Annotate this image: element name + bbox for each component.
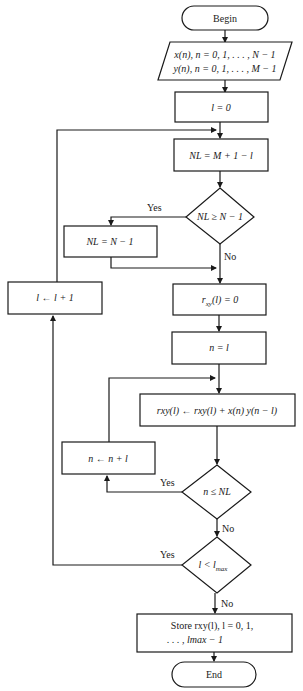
- decision-nl-no-label: No: [224, 251, 236, 262]
- accum-box: rxy(l) ← rxy(l) + x(n) y(n − l): [140, 394, 295, 426]
- input-line1: x(n), n = 0, 1, . . . , N − 1: [173, 49, 275, 61]
- store-line2: . . . , lmax − 1: [167, 634, 223, 645]
- decision-n: n ≤ NL: [182, 465, 251, 519]
- end-terminator: End: [172, 662, 256, 687]
- init-r-box: rxy(l) = 0: [173, 284, 266, 315]
- decision-l-yes-label: Yes: [160, 549, 175, 560]
- end-label: End: [206, 669, 222, 680]
- input-parallelogram: x(n), n = 0, 1, . . . , N − 1 y(n), n = …: [158, 42, 292, 80]
- inc-n-box: n ← n + l: [62, 442, 155, 474]
- calc-nl-box: NL = M + 1 − l: [174, 139, 268, 171]
- init-n-label: n = l: [209, 342, 229, 353]
- store-line1: Store rxy(l), l = 0, 1,: [171, 620, 253, 632]
- decision-nl: NL ≥ N − 1: [186, 188, 254, 244]
- begin-label: Begin: [213, 13, 237, 24]
- edge-decision-l-yes: [53, 316, 182, 565]
- store-box: Store rxy(l), l = 0, 1, . . . , lmax − 1: [137, 614, 292, 652]
- flowchart: Begin x(n), n = 0, 1, . . . , N − 1 y(n)…: [0, 0, 303, 691]
- edge-decision-nl-yes: [111, 217, 186, 225]
- init-l-label: l = 0: [211, 102, 231, 113]
- set-nl-box: NL = N − 1: [64, 226, 157, 257]
- decision-nl-yes-label: Yes: [147, 202, 162, 213]
- decision-l: l < lmax: [182, 537, 251, 593]
- accum-label: rxy(l) ← rxy(l) + x(n) y(n − l): [157, 405, 278, 417]
- set-nl-label: NL = N − 1: [85, 236, 133, 247]
- decision-nl-label: NL ≥ N − 1: [196, 211, 243, 222]
- begin-terminator: Begin: [182, 6, 268, 30]
- init-l-box: l = 0: [175, 92, 268, 122]
- decision-n-label: n ≤ NL: [203, 486, 231, 497]
- input-line2: y(n), n = 0, 1, . . . , M − 1: [173, 63, 277, 75]
- init-n-box: n = l: [172, 332, 266, 364]
- edge-setnl-merge: [111, 257, 216, 268]
- calc-nl-label: NL = M + 1 − l: [188, 150, 253, 161]
- decision-l-no-label: No: [221, 598, 233, 609]
- inc-l-label: l ← l + 1: [36, 292, 73, 303]
- decision-n-yes-label: Yes: [160, 477, 175, 488]
- inc-n-label: n ← n + l: [88, 453, 128, 464]
- decision-n-no-label: No: [222, 523, 234, 534]
- inc-l-box: l ← l + 1: [8, 282, 102, 314]
